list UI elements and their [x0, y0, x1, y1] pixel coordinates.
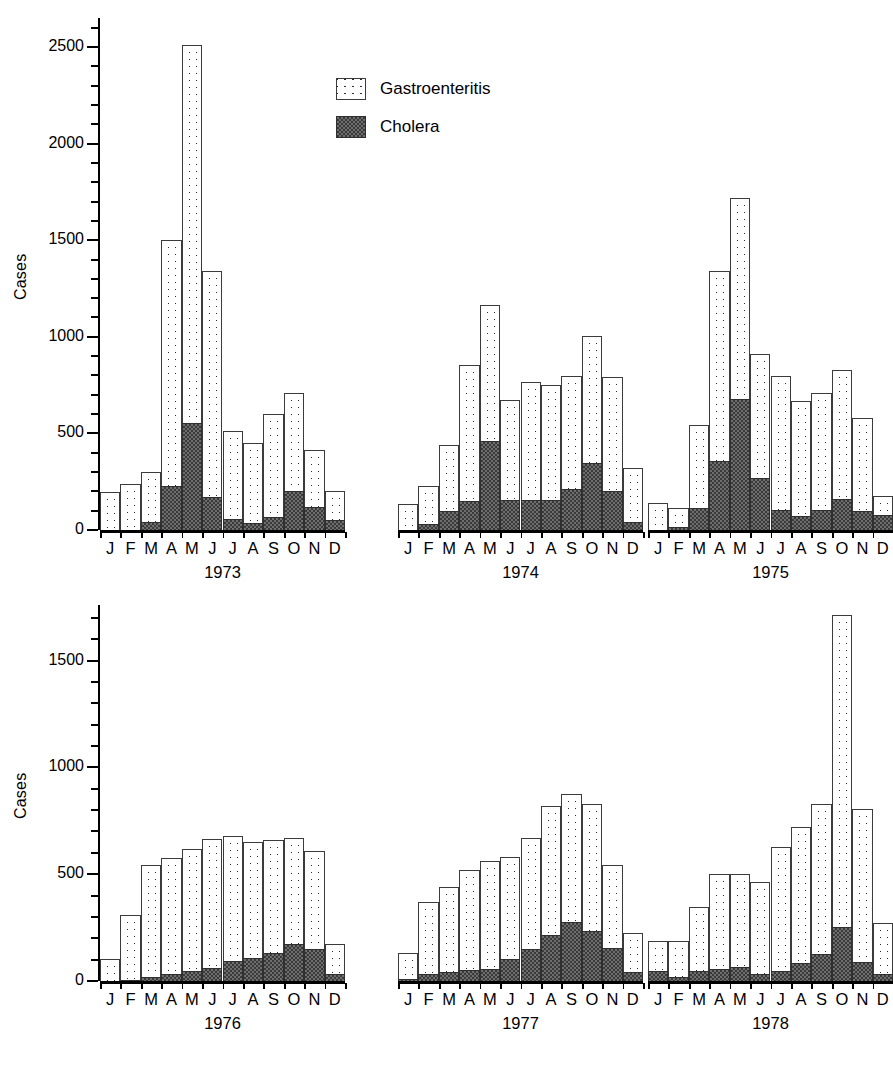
y-axis-major-tick [87, 766, 98, 768]
panel-year-label: 1974 [398, 563, 643, 582]
y-axis-minor-tick [91, 471, 98, 473]
y-axis-minor-tick [91, 452, 98, 454]
y-axis-minor-tick [91, 259, 98, 261]
x-axis-tick [623, 983, 625, 989]
x-axis-tick [750, 983, 752, 989]
x-axis-month-label: F [418, 990, 438, 1009]
year-panel-1973: JFMAMJJASOND1973 [100, 18, 345, 574]
bar-group [418, 902, 438, 981]
x-axis-month-label: S [811, 539, 831, 558]
bar-group [873, 923, 893, 981]
bar-segment-gastroenteritis [182, 849, 202, 981]
x-axis-tick [304, 983, 306, 989]
bar-group [623, 468, 643, 530]
bar-segment-cholera [791, 963, 811, 981]
bar-group [243, 443, 263, 530]
x-axis-month-label: M [730, 990, 750, 1009]
x-axis-tick [161, 983, 163, 989]
y-axis-tick-label: 2000 [32, 134, 84, 152]
y-axis-minor-tick [91, 27, 98, 29]
bar-segment-cholera [243, 523, 263, 530]
bar-segment-cholera [771, 971, 791, 981]
x-axis-tick [459, 983, 461, 989]
bar-segment-cholera [873, 974, 893, 981]
x-axis-tick [561, 983, 563, 989]
bar-segment-cholera [689, 508, 709, 530]
bar-segment-cholera [459, 970, 479, 981]
chart-row-bottom: 050010001500CasesJFMAMJJASOND1976JFMAMJJ… [0, 585, 893, 1069]
x-axis-tick [500, 532, 502, 538]
bar-group [582, 804, 602, 981]
bar-group [100, 492, 120, 530]
y-axis-minor-tick [91, 617, 98, 619]
x-axis-month-label: J [223, 539, 243, 558]
bar-segment-gastroenteritis [263, 414, 283, 530]
x-axis-month-label: N [602, 539, 622, 558]
bar-group [120, 915, 140, 981]
bar-segment-cholera [771, 510, 791, 530]
bar-segment-gastroenteritis [771, 847, 791, 981]
y-axis-minor-tick [91, 104, 98, 106]
bar-group [500, 400, 520, 530]
x-axis-tick [602, 532, 604, 538]
x-axis-tick [202, 983, 204, 989]
y-axis-minor-tick [91, 916, 98, 918]
x-axis-tick [648, 532, 650, 538]
year-panel-1976: JFMAMJJASOND1976 [100, 605, 345, 1025]
bar-segment-cholera [541, 500, 561, 530]
bar-segment-cholera [602, 948, 622, 981]
x-axis-month-label: J [750, 990, 770, 1009]
bar-segment-gastroenteritis [648, 503, 668, 530]
x-axis-month-label: S [263, 990, 283, 1009]
y-axis-minor-tick [91, 490, 98, 492]
y-axis-tick-label: 500 [32, 423, 84, 441]
bar-segment-gastroenteritis [100, 492, 120, 530]
x-axis-month-label: J [398, 990, 418, 1009]
x-axis-tick [791, 532, 793, 538]
y-axis-minor-tick [91, 702, 98, 704]
bar-group [730, 198, 750, 530]
bar-segment-gastroenteritis [223, 431, 243, 531]
bar-segment-cholera [791, 516, 811, 530]
x-axis-tick [459, 532, 461, 538]
x-axis-month-label: O [832, 539, 852, 558]
x-axis-month-label: D [873, 539, 893, 558]
bar-segment-gastroenteritis [791, 827, 811, 981]
bar-group [141, 472, 161, 530]
bar-segment-cholera [873, 515, 893, 530]
y-axis-minor-tick [91, 297, 98, 299]
panel-year-label: 1978 [648, 1014, 893, 1033]
bar-segment-gastroenteritis [243, 443, 263, 530]
y-axis-minor-tick [91, 220, 98, 222]
bar-segment-cholera [623, 522, 643, 530]
bar-segment-cholera [284, 491, 304, 530]
x-axis-tick [263, 983, 265, 989]
bar-group [750, 882, 770, 981]
x-axis-tick [325, 532, 327, 538]
x-axis-month-label: N [304, 539, 324, 558]
bar-segment-cholera [852, 511, 872, 530]
bar-segment-cholera [582, 931, 602, 981]
x-axis-month-label: D [325, 990, 345, 1009]
x-axis-month-label: J [771, 539, 791, 558]
y-axis-tick-label: 1000 [32, 757, 84, 775]
x-axis-month-label: J [100, 539, 120, 558]
y-axis-minor-tick [91, 638, 98, 640]
year-panel-1974: JFMAMJJASOND1974 [398, 18, 643, 574]
bar-segment-cholera [541, 935, 561, 981]
y-axis-minor-tick [91, 85, 98, 87]
bar-group [771, 847, 791, 981]
x-axis-month-label: A [791, 990, 811, 1009]
bar-group [500, 857, 520, 981]
y-axis-minor-tick [91, 788, 98, 790]
x-axis-month-label: F [120, 539, 140, 558]
x-axis-tick [541, 983, 543, 989]
x-axis-tick [668, 983, 670, 989]
bar-segment-cholera [730, 399, 750, 530]
y-axis-tick-label: 1000 [32, 327, 84, 345]
y-axis-minor-tick [91, 201, 98, 203]
panel-year-label: 1975 [648, 563, 893, 582]
bar-segment-cholera [648, 971, 668, 981]
bar-group [480, 861, 500, 981]
bar-segment-gastroenteritis [120, 915, 140, 981]
